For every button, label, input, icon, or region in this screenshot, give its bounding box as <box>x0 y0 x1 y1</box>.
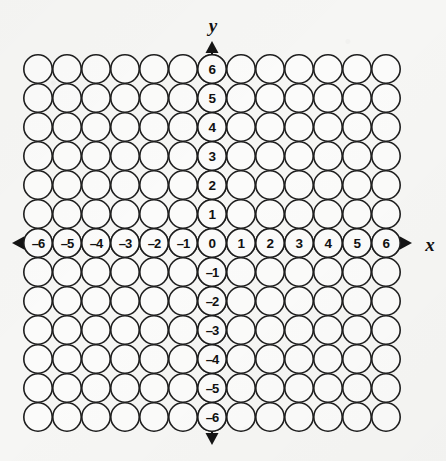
grid-circle[interactable] <box>314 142 342 170</box>
grid-circle[interactable] <box>227 316 255 344</box>
grid-circle[interactable] <box>343 287 371 315</box>
grid-circle[interactable] <box>343 171 371 199</box>
grid-circle[interactable] <box>227 113 255 141</box>
grid-circle[interactable] <box>372 142 400 170</box>
grid-circle[interactable] <box>82 171 110 199</box>
grid-circle[interactable] <box>169 316 197 344</box>
grid-circle[interactable] <box>169 142 197 170</box>
grid-circle[interactable] <box>285 84 313 112</box>
grid-circle[interactable] <box>82 345 110 373</box>
grid-circle[interactable] <box>111 84 139 112</box>
grid-circle[interactable] <box>343 55 371 83</box>
grid-circle[interactable] <box>256 55 284 83</box>
grid-circle[interactable] <box>343 374 371 402</box>
grid-circle[interactable] <box>140 345 168 373</box>
grid-circle[interactable] <box>111 142 139 170</box>
grid-circle[interactable] <box>256 142 284 170</box>
grid-circle[interactable] <box>314 345 342 373</box>
grid-circle[interactable] <box>140 316 168 344</box>
grid-circle[interactable] <box>314 287 342 315</box>
grid-circle[interactable] <box>111 287 139 315</box>
grid-circle[interactable] <box>24 113 52 141</box>
grid-circle[interactable] <box>53 345 81 373</box>
grid-circle[interactable] <box>372 113 400 141</box>
grid-circle[interactable] <box>372 171 400 199</box>
grid-circle[interactable] <box>227 345 255 373</box>
grid-circle[interactable] <box>169 287 197 315</box>
grid-circle[interactable] <box>140 171 168 199</box>
grid-circle[interactable] <box>53 403 81 431</box>
grid-circle[interactable] <box>82 84 110 112</box>
grid-circle[interactable] <box>140 258 168 286</box>
grid-circle[interactable] <box>285 403 313 431</box>
grid-circle[interactable] <box>372 374 400 402</box>
grid-circle[interactable] <box>343 113 371 141</box>
grid-circle[interactable] <box>343 258 371 286</box>
grid-circle[interactable] <box>111 316 139 344</box>
grid-circle[interactable] <box>372 345 400 373</box>
grid-circle[interactable] <box>24 200 52 228</box>
grid-circle[interactable] <box>140 287 168 315</box>
grid-circle[interactable] <box>111 374 139 402</box>
grid-circle[interactable] <box>111 55 139 83</box>
grid-circle[interactable] <box>314 374 342 402</box>
grid-circle[interactable] <box>111 403 139 431</box>
grid-circle[interactable] <box>285 200 313 228</box>
grid-circle[interactable] <box>343 200 371 228</box>
grid-circle[interactable] <box>285 374 313 402</box>
grid-circle[interactable] <box>24 84 52 112</box>
grid-circle[interactable] <box>285 55 313 83</box>
grid-circle[interactable] <box>285 258 313 286</box>
grid-circle[interactable] <box>169 345 197 373</box>
grid-circle[interactable] <box>372 287 400 315</box>
grid-circle[interactable] <box>140 374 168 402</box>
grid-circle[interactable] <box>53 374 81 402</box>
grid-circle[interactable] <box>140 84 168 112</box>
grid-circle[interactable] <box>140 142 168 170</box>
grid-circle[interactable] <box>314 200 342 228</box>
grid-circle[interactable] <box>24 171 52 199</box>
grid-circle[interactable] <box>285 113 313 141</box>
grid-circle[interactable] <box>140 200 168 228</box>
grid-circle[interactable] <box>227 374 255 402</box>
grid-circle[interactable] <box>169 258 197 286</box>
grid-circle[interactable] <box>169 200 197 228</box>
grid-circle[interactable] <box>111 113 139 141</box>
grid-circle[interactable] <box>140 113 168 141</box>
grid-circle[interactable] <box>256 113 284 141</box>
grid-circle[interactable] <box>227 142 255 170</box>
grid-circle[interactable] <box>53 84 81 112</box>
grid-circle[interactable] <box>24 258 52 286</box>
grid-circle[interactable] <box>314 316 342 344</box>
grid-circle[interactable] <box>82 403 110 431</box>
grid-circle[interactable] <box>227 287 255 315</box>
grid-circle[interactable] <box>111 345 139 373</box>
grid-circle[interactable] <box>24 55 52 83</box>
grid-circle[interactable] <box>53 142 81 170</box>
grid-circle[interactable] <box>24 345 52 373</box>
grid-circle[interactable] <box>372 403 400 431</box>
grid-circle[interactable] <box>82 374 110 402</box>
grid-circle[interactable] <box>343 84 371 112</box>
grid-circle[interactable] <box>82 258 110 286</box>
grid-circle[interactable] <box>82 113 110 141</box>
grid-circle[interactable] <box>53 55 81 83</box>
grid-circle[interactable] <box>227 84 255 112</box>
grid-circle[interactable] <box>343 316 371 344</box>
grid-circle[interactable] <box>372 84 400 112</box>
grid-circle[interactable] <box>82 287 110 315</box>
grid-circle[interactable] <box>227 171 255 199</box>
grid-circle[interactable] <box>343 403 371 431</box>
grid-circle[interactable] <box>82 55 110 83</box>
grid-circle[interactable] <box>24 142 52 170</box>
grid-circle[interactable] <box>111 258 139 286</box>
grid-circle[interactable] <box>227 55 255 83</box>
grid-circle[interactable] <box>256 84 284 112</box>
grid-circle[interactable] <box>343 142 371 170</box>
grid-circle[interactable] <box>256 200 284 228</box>
grid-circle[interactable] <box>169 55 197 83</box>
grid-circle[interactable] <box>256 258 284 286</box>
grid-circle[interactable] <box>227 258 255 286</box>
grid-circle[interactable] <box>111 200 139 228</box>
grid-circle[interactable] <box>372 200 400 228</box>
